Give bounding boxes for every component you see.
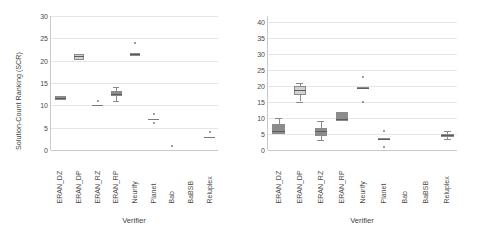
x-tick-label-babsb: BaBSB <box>422 156 429 204</box>
y-tick-label: 0 <box>44 147 51 154</box>
chart-panel-left: Solution-Count Ranking (SCR) 05101520253… <box>0 0 237 233</box>
gridline <box>51 150 218 151</box>
box-eran_dz <box>272 124 284 134</box>
outlier-point <box>383 146 385 148</box>
x-tick-label-reluplex: Reluplex <box>443 156 450 204</box>
x-tick-label-neurify: Neurify <box>359 156 366 204</box>
whisker-cap-upper <box>113 87 119 88</box>
y-axis-title-left: Solution-Count Ranking (SCR) <box>14 52 23 150</box>
median-line <box>357 88 369 89</box>
box-flat <box>92 105 103 106</box>
y-tick-label: 0 <box>261 147 268 154</box>
outlier-point <box>383 130 385 132</box>
outlier-point <box>362 76 364 78</box>
median-line <box>336 119 348 120</box>
median-line <box>315 131 327 132</box>
x-tick-label-planet: Planet <box>380 156 387 204</box>
median-line <box>55 98 66 99</box>
median-line <box>74 56 85 57</box>
whisker-cap-lower <box>444 139 451 140</box>
median-line <box>378 139 390 140</box>
outlier-point <box>153 113 155 115</box>
chart-panel-right: 0510152025303540 Verifier ERAN_DZERAN_DP… <box>237 0 477 233</box>
y-tick-label: 25 <box>40 35 51 42</box>
x-tick-label-eran_dp: ERAN_DP <box>295 156 302 204</box>
x-tick-label-eran_dz: ERAN_DZ <box>274 156 281 204</box>
x-tick-label-eran_rz: ERAN_RZ <box>93 156 100 204</box>
y-tick-label: 10 <box>40 102 51 109</box>
y-tick-label: 20 <box>40 57 51 64</box>
box-flat <box>204 137 215 138</box>
y-tick-label: 30 <box>257 51 268 58</box>
median-line <box>441 135 453 136</box>
gridline <box>51 61 218 62</box>
whisker-lower <box>300 95 301 102</box>
whisker-cap-lower <box>296 102 303 103</box>
y-tick-label: 35 <box>257 35 268 42</box>
gridline <box>51 16 218 17</box>
x-tick-label-reluplex: Reluplex <box>205 156 212 204</box>
x-tick-label-bab: Bab <box>168 156 175 204</box>
gridline <box>268 150 457 151</box>
x-tick-label-bab: Bab <box>401 156 408 204</box>
x-tick-label-eran_dz: ERAN_DZ <box>56 156 63 204</box>
gridline <box>268 38 457 39</box>
x-tick-label-eran_dp: ERAN_DP <box>75 156 82 204</box>
outlier-point <box>134 42 136 44</box>
median-line <box>130 54 141 55</box>
median-line <box>111 94 122 95</box>
plot-area-right: 0510152025303540 <box>267 16 457 150</box>
outlier-point <box>362 101 364 103</box>
median-line <box>294 90 306 91</box>
x-tick-label-neurify: Neurify <box>131 156 138 204</box>
gridline <box>268 22 457 23</box>
y-tick-label: 40 <box>257 19 268 26</box>
x-tick-label-planet: Planet <box>149 156 156 204</box>
whisker-cap-upper <box>317 121 324 122</box>
y-tick-label: 10 <box>257 115 268 122</box>
gridline <box>51 38 218 39</box>
whisker-cap-upper <box>275 118 282 119</box>
outlier-point <box>171 145 173 147</box>
x-tick-label-eran_rp: ERAN_RP <box>337 156 344 204</box>
gridline <box>51 128 218 129</box>
plot-area-left: 051015202530 <box>50 16 218 150</box>
x-axis-title-left: Verifier <box>50 216 218 225</box>
whisker-cap-upper <box>296 83 303 84</box>
whisker-cap-lower <box>113 101 119 102</box>
y-tick-label: 30 <box>40 13 51 20</box>
y-tick-label: 20 <box>257 83 268 90</box>
outlier-point <box>209 131 211 133</box>
gridline <box>268 70 457 71</box>
gridline <box>268 134 457 135</box>
y-tick-label: 5 <box>44 124 51 131</box>
y-tick-label: 5 <box>261 131 268 138</box>
whisker-cap-upper <box>444 131 451 132</box>
outlier-point <box>97 100 99 102</box>
x-tick-label-eran_rz: ERAN_RZ <box>316 156 323 204</box>
y-tick-label: 15 <box>40 80 51 87</box>
x-tick-label-babsb: BaBSB <box>187 156 194 204</box>
whisker-cap-lower <box>317 140 324 141</box>
gridline <box>51 105 218 106</box>
box-flat <box>148 119 159 120</box>
median-line <box>272 131 284 132</box>
gridline <box>268 54 457 55</box>
y-tick-label: 25 <box>257 67 268 74</box>
x-tick-label-eran_rp: ERAN_RP <box>112 156 119 204</box>
outlier-point <box>153 122 155 124</box>
gridline <box>51 83 218 84</box>
boxplot-figure: Solution-Count Ranking (SCR) 05101520253… <box>0 0 477 233</box>
y-tick-label: 15 <box>257 99 268 106</box>
x-axis-title-right: Verifier <box>267 216 457 225</box>
gridline <box>268 118 457 119</box>
